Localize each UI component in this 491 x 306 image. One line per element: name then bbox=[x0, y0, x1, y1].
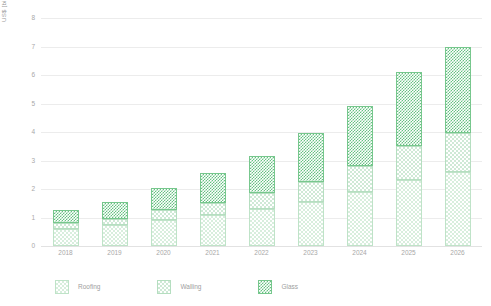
x-axis-tick-label: 2023 bbox=[303, 250, 317, 257]
x-axis-tick-label: 2022 bbox=[254, 250, 268, 257]
stacked-bar-chart: US$ [billion] 012345678 2018201920202021… bbox=[0, 0, 491, 306]
plot-area: 012345678 bbox=[41, 18, 482, 246]
y-axis-tick-label: 8 bbox=[31, 15, 35, 22]
gridline: 0 bbox=[41, 246, 482, 247]
bar-group-2026[interactable] bbox=[445, 18, 471, 246]
bar-segment-walling-2025[interactable] bbox=[396, 146, 422, 180]
bar-segment-glass-2026[interactable] bbox=[445, 47, 471, 134]
bar-segment-walling-2026[interactable] bbox=[445, 133, 471, 171]
x-axis-tick-label: 2020 bbox=[156, 250, 170, 257]
x-axis-tick-label: 2021 bbox=[205, 250, 219, 257]
bar-segment-glass-2020[interactable] bbox=[151, 188, 177, 211]
x-axis-tick-label: 2026 bbox=[450, 250, 464, 257]
legend-swatch-walling-icon bbox=[157, 280, 171, 294]
y-axis-title: US$ [billion] bbox=[0, 0, 12, 30]
legend-item-roofing[interactable]: Roofing bbox=[55, 280, 100, 294]
legend-swatch-roofing-icon bbox=[55, 280, 69, 294]
bar-segment-glass-2025[interactable] bbox=[396, 72, 422, 146]
bar-group-2023[interactable] bbox=[298, 18, 324, 246]
legend-item-walling[interactable]: Walling bbox=[157, 280, 201, 294]
bar-segment-walling-2018[interactable] bbox=[53, 223, 79, 229]
x-axis-tick-label: 2025 bbox=[401, 250, 415, 257]
legend-item-glass[interactable]: Glass bbox=[258, 280, 298, 294]
bar-group-2025[interactable] bbox=[396, 18, 422, 246]
y-axis-tick-label: 5 bbox=[31, 100, 35, 107]
x-axis-tick-label: 2019 bbox=[107, 250, 121, 257]
legend-swatch-glass-icon bbox=[258, 280, 272, 294]
legend-label: Walling bbox=[180, 284, 201, 291]
bar-segment-glass-2023[interactable] bbox=[298, 133, 324, 181]
bar-segment-roofing-2025[interactable] bbox=[396, 180, 422, 246]
bar-segment-glass-2018[interactable] bbox=[53, 210, 79, 223]
y-axis-tick-label: 6 bbox=[31, 72, 35, 79]
y-axis-tick-label: 4 bbox=[31, 129, 35, 136]
legend-label: Glass bbox=[281, 284, 298, 291]
bar-segment-glass-2024[interactable] bbox=[347, 106, 373, 166]
legend-label: Roofing bbox=[78, 284, 100, 291]
bar-group-2019[interactable] bbox=[102, 18, 128, 246]
bar-segment-walling-2021[interactable] bbox=[200, 203, 226, 214]
y-axis-tick-label: 1 bbox=[31, 214, 35, 221]
bar-group-2022[interactable] bbox=[249, 18, 275, 246]
y-axis-tick-label: 3 bbox=[31, 157, 35, 164]
bar-group-2021[interactable] bbox=[200, 18, 226, 246]
bar-segment-walling-2023[interactable] bbox=[298, 182, 324, 202]
bar-segment-roofing-2021[interactable] bbox=[200, 215, 226, 246]
x-axis-labels: 201820192020202120222023202420252026 bbox=[41, 250, 482, 264]
bar-segment-roofing-2018[interactable] bbox=[53, 229, 79, 246]
bar-group-2020[interactable] bbox=[151, 18, 177, 246]
bar-segment-glass-2021[interactable] bbox=[200, 173, 226, 203]
y-axis-tick-label: 2 bbox=[31, 186, 35, 193]
bar-segment-roofing-2022[interactable] bbox=[249, 209, 275, 246]
bar-segment-walling-2022[interactable] bbox=[249, 193, 275, 209]
bar-segment-roofing-2024[interactable] bbox=[347, 192, 373, 246]
x-axis-tick-label: 2018 bbox=[58, 250, 72, 257]
bar-segment-roofing-2020[interactable] bbox=[151, 220, 177, 246]
bar-segment-glass-2022[interactable] bbox=[249, 156, 275, 193]
y-axis-tick-label: 7 bbox=[31, 43, 35, 50]
bar-group-2024[interactable] bbox=[347, 18, 373, 246]
bar-group-2018[interactable] bbox=[53, 18, 79, 246]
bar-segment-glass-2019[interactable] bbox=[102, 202, 128, 219]
bar-segment-walling-2024[interactable] bbox=[347, 166, 373, 192]
bar-segment-roofing-2026[interactable] bbox=[445, 172, 471, 246]
bars-layer bbox=[41, 18, 482, 246]
y-axis-tick-label: 0 bbox=[31, 243, 35, 250]
bar-segment-walling-2020[interactable] bbox=[151, 210, 177, 220]
bar-segment-roofing-2023[interactable] bbox=[298, 202, 324, 246]
x-axis-tick-label: 2024 bbox=[352, 250, 366, 257]
bar-segment-roofing-2019[interactable] bbox=[102, 225, 128, 246]
bar-segment-walling-2019[interactable] bbox=[102, 219, 128, 225]
chart-legend: RoofingWallingGlass bbox=[55, 278, 355, 296]
